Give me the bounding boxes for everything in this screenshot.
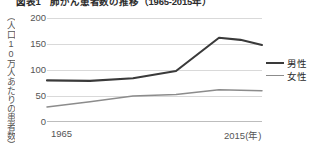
series-lines (47, 18, 262, 122)
legend-label-male: 男性 (287, 56, 307, 70)
y-axis-label: （人口10万人あたりの患者数） (1, 12, 15, 144)
plot-area (47, 18, 262, 122)
legend-label-female: 女性 (287, 69, 307, 83)
x-tick-2015: 2015(年) (224, 128, 261, 142)
line-series-female (47, 90, 262, 107)
chart-title: 図表1 肺がん患者数の推移（1965-2015年） (16, 0, 212, 8)
legend-swatch-male-icon (266, 62, 284, 64)
x-tick-1965: 1965 (51, 128, 72, 139)
chart-figure: 図表1 肺がん患者数の推移（1965-2015年） （人口10万人あたりの患者数… (0, 0, 310, 154)
legend-item-male: 男性 (266, 56, 307, 69)
y-tick-0: 0 (16, 116, 46, 127)
y-tick-200: 200 (16, 12, 46, 23)
y-tick-100: 100 (16, 64, 46, 75)
y-tick-50: 50 (16, 90, 46, 101)
legend-item-female: 女性 (266, 69, 307, 82)
y-tick-150: 150 (16, 38, 46, 49)
legend-swatch-female-icon (266, 75, 284, 76)
line-series-male (47, 38, 262, 81)
chart-legend: 男性 女性 (266, 56, 307, 82)
